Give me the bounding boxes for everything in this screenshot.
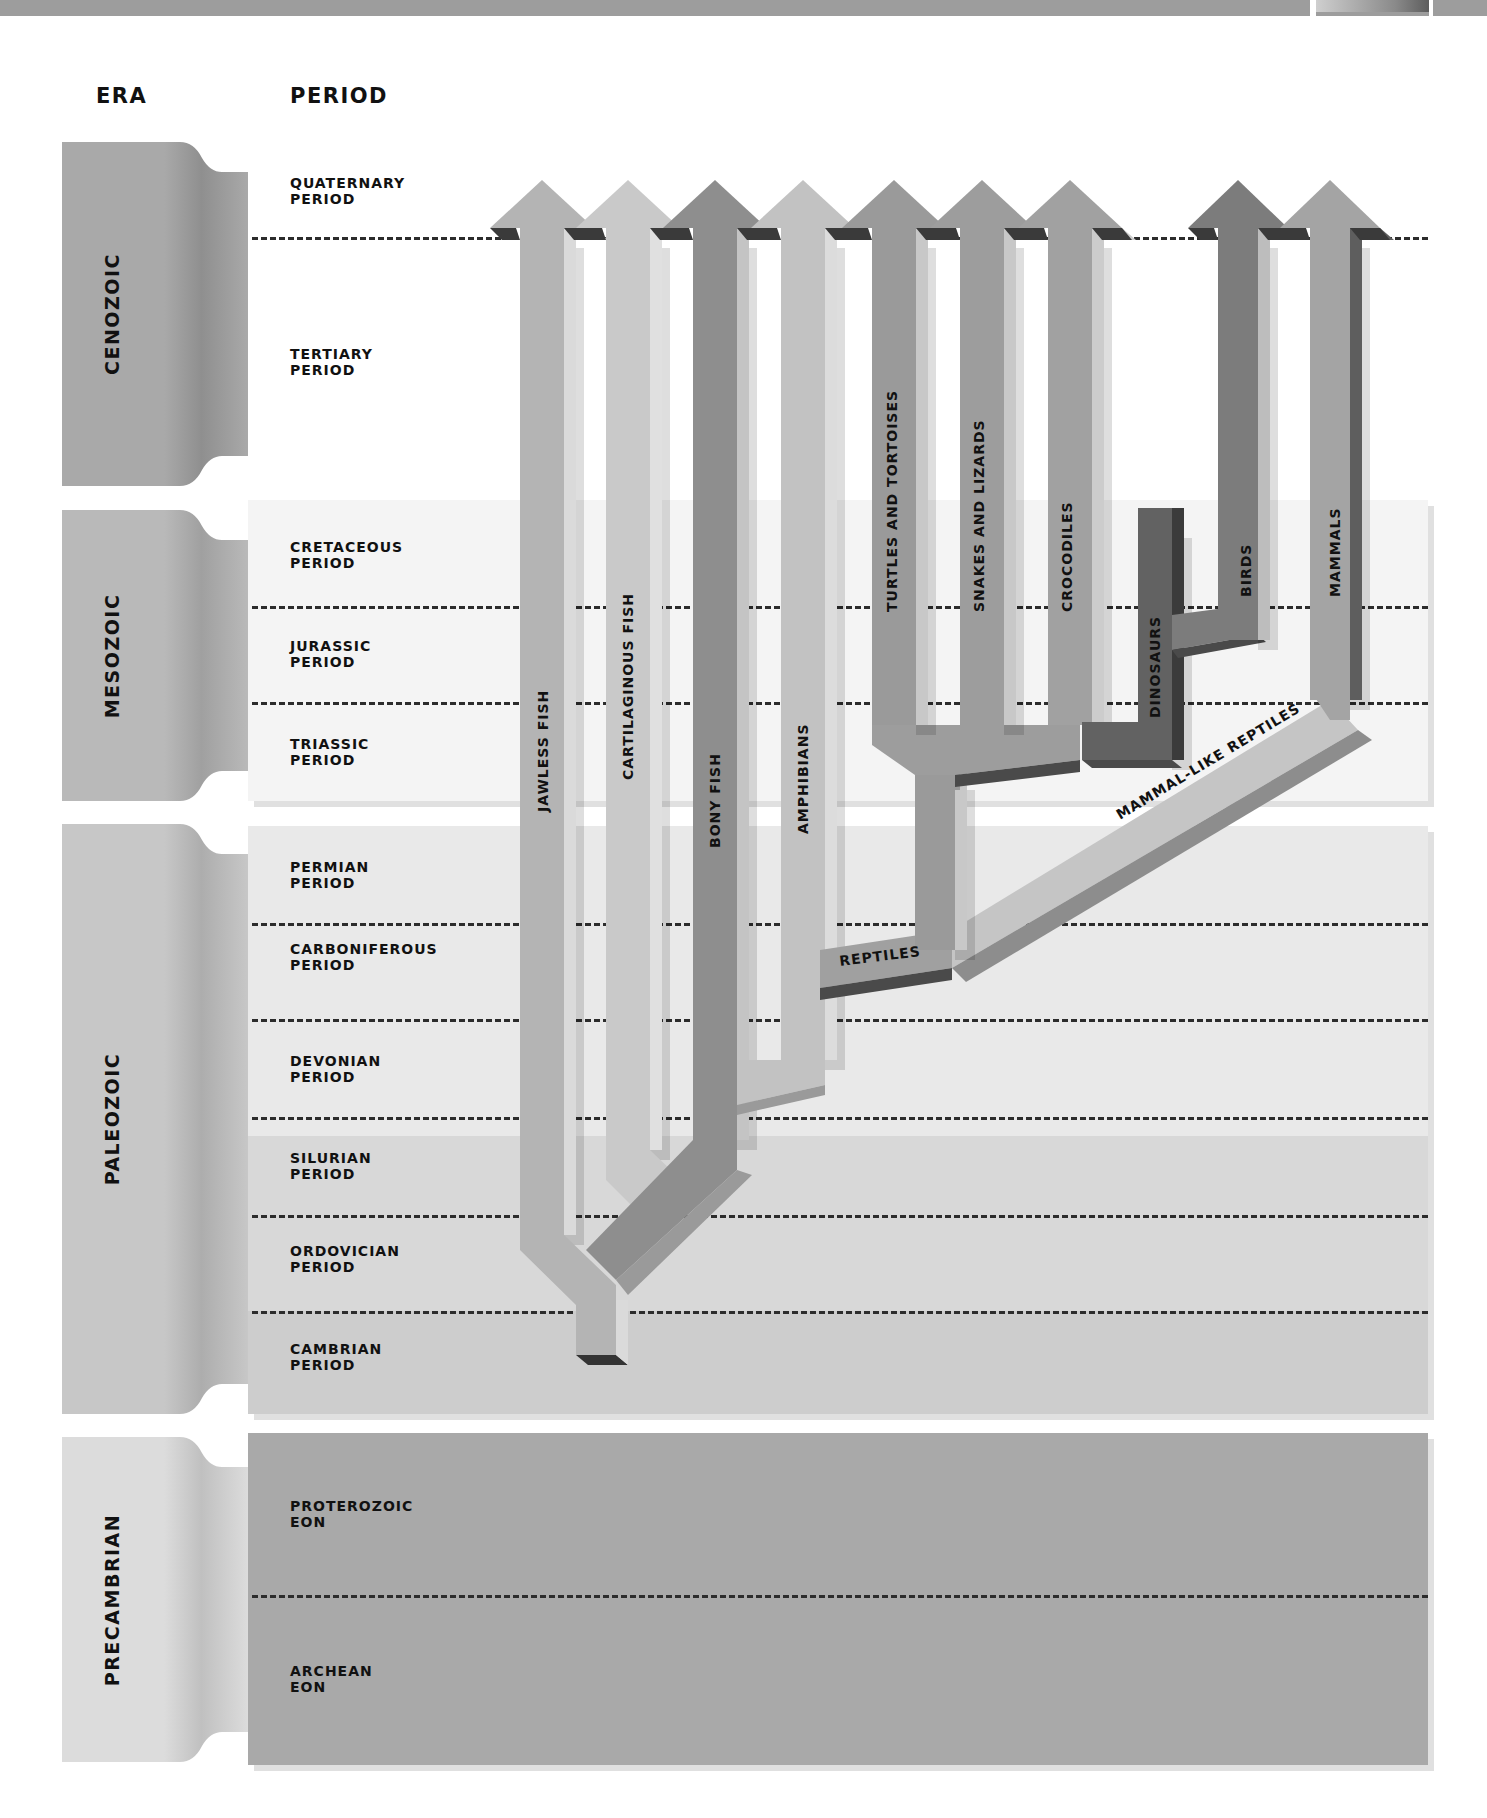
branch-side (825, 218, 837, 1060)
lineage-label: TURTLES AND TORTOISES (884, 390, 900, 612)
lineage-label: SNAKES AND LIZARDS (971, 419, 987, 612)
arrowhead-underside (490, 228, 520, 240)
lineage-label: AMPHIBIANS (795, 724, 811, 834)
era-label: PRECAMBRIAN (62, 1437, 162, 1762)
period-label: ORDOVICIAN PERIOD (290, 1243, 400, 1275)
period-label: TERTIARY PERIOD (290, 346, 373, 378)
era-label: MESOZOIC (62, 510, 162, 801)
branch-side (1350, 218, 1362, 700)
lineage-label: CARTILAGINOUS FISH (620, 593, 636, 780)
arrowhead-underside (1188, 228, 1218, 240)
period-label: SILURIAN PERIOD (290, 1150, 372, 1182)
branch-side (737, 218, 749, 1140)
period-label: CAMBRIAN PERIOD (290, 1341, 382, 1373)
era-label: CENOZOIC (62, 142, 162, 486)
branch-side (1092, 218, 1104, 725)
branch-side (1004, 218, 1016, 725)
branch-side (916, 218, 928, 725)
lineage-label: BONY FISH (707, 753, 723, 848)
branch-edge (1082, 760, 1182, 768)
period-label: DEVONIAN PERIOD (290, 1053, 381, 1085)
arrowhead-icon (751, 180, 855, 228)
branch-side (650, 218, 662, 1150)
period-label: CARBONIFEROUSPERIOD (290, 941, 438, 973)
era-tab-cenozoic: CENOZOIC (62, 142, 248, 486)
branch-turtles-and-tortoises (915, 760, 955, 950)
arrowhead-icon (842, 180, 946, 228)
period-label: PROTEROZOIC EON (290, 1498, 413, 1530)
branch-side (1258, 218, 1270, 640)
period-label: JURASSIC PERIOD (290, 638, 371, 670)
lineage-label: CROCODILES (1059, 501, 1075, 612)
period-label: ARCHEAN EON (290, 1663, 373, 1695)
era-label: PALEOZOIC (62, 824, 162, 1414)
arrowhead-icon (1018, 180, 1122, 228)
branch-bony-fish (693, 218, 737, 1140)
period-label: PERMIAN PERIOD (290, 859, 369, 891)
era-tab-paleozoic: PALEOZOIC (62, 824, 248, 1414)
branch-mammals (1310, 218, 1350, 700)
arrowhead-icon (576, 180, 680, 228)
branch-crocodiles (1048, 218, 1092, 725)
lineage-label: MAMMALS (1327, 508, 1343, 597)
lineage-label: BIRDS (1238, 544, 1254, 597)
era-tab-precambrian: PRECAMBRIAN (62, 1437, 248, 1762)
arrowhead-icon (1188, 180, 1288, 228)
branch-side (564, 218, 576, 1235)
arrowhead-icon (1280, 180, 1380, 228)
period-label: QUATERNARY PERIOD (290, 175, 405, 207)
era-tab-mesozoic: MESOZOIC (62, 510, 248, 801)
branch-side (616, 1300, 628, 1365)
arrowhead-icon (663, 180, 767, 228)
lineage-label: DINOSAURS (1147, 616, 1163, 718)
arrowhead-icon (490, 180, 594, 228)
period-label: CRETACEOUS PERIOD (290, 539, 403, 571)
branch-amphibians (781, 218, 825, 1060)
period-label: TRIASSIC PERIOD (290, 736, 369, 768)
arrowhead-icon (930, 180, 1034, 228)
lineage-label: JAWLESS FISH (535, 690, 551, 813)
